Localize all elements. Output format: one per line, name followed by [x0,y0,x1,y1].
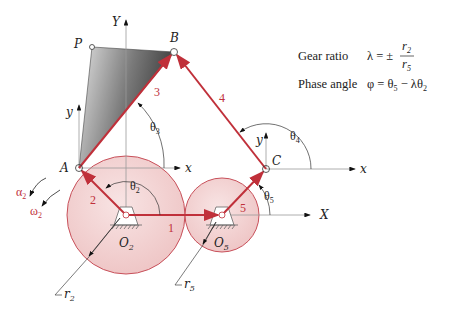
label-B: B [169,31,179,45]
pivot-P [90,45,95,50]
label-global-Y: Y [112,15,121,29]
svg-text:r2: r2 [402,39,411,55]
label-local-x-C: x [360,162,367,176]
link-4 [177,55,266,169]
svg-text:Phase angle: Phase angle [298,77,358,91]
label-local-y-A: y [65,105,73,119]
label-alpha2: α2 [16,185,26,201]
label-link-1: 1 [168,221,174,235]
label-P: P [73,37,83,51]
label-local-y-C: y [255,133,263,147]
svg-text:r5: r5 [402,57,411,73]
label-A: A [59,161,69,175]
label-r2: r2 [64,287,75,303]
geared-fivebar-diagram: P B A C O2 O5 Y X x y x y 1 2 3 4 5 θ2 θ… [0,0,457,318]
label-global-X: X [319,208,329,222]
label-link-3: 3 [154,85,160,99]
pivot-B [171,49,178,56]
label-link-5: 5 [240,201,246,215]
omega2-arrow [42,190,60,206]
svg-text:φ = θ5 − λθ2: φ = θ5 − λθ2 [367,77,427,93]
label-theta5: θ5 [264,189,274,205]
pivot-O2 [123,212,129,218]
gear-ratio-equation: Gear ratio λ = ± r2 r5 [298,39,414,73]
label-theta3: θ3 [150,120,160,136]
label-r5: r5 [184,277,195,293]
alpha2-arrow [30,178,46,196]
svg-text:λ = ±: λ = ± [367,49,393,63]
label-C: C [272,154,281,168]
label-theta4: θ4 [290,129,300,145]
pivot-O5 [219,212,225,218]
label-link-4: 4 [219,91,225,105]
svg-text:Gear ratio: Gear ratio [298,49,348,63]
label-local-x-A: x [185,161,192,175]
label-link-2: 2 [90,193,96,207]
label-omega2: ω2 [30,204,42,220]
phase-angle-equation: Phase angle φ = θ5 − λθ2 [298,77,427,93]
